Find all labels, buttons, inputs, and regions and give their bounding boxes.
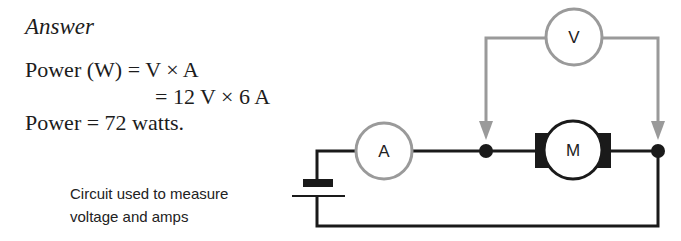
circuit-diagram: A M V (0, 0, 681, 241)
junction-dot-left (479, 144, 493, 158)
voltmeter-probe-arrow-right (651, 121, 665, 140)
battery-positive-plate (303, 179, 333, 187)
ammeter-label: A (378, 142, 390, 161)
voltmeter: V (546, 9, 602, 65)
ammeter: A (356, 123, 412, 179)
voltmeter-probe-arrow-left (479, 121, 493, 140)
motor-label: M (566, 141, 580, 160)
motor: M (535, 121, 611, 179)
junction-dot-right (651, 144, 665, 158)
voltmeter-label: V (568, 28, 580, 47)
